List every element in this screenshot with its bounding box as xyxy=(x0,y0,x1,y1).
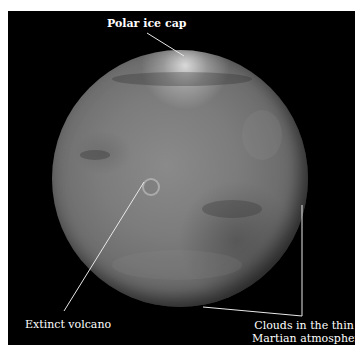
surface-feature xyxy=(112,72,252,86)
clouds-label: Clouds in the thin Martian atmosphere xyxy=(252,319,356,345)
extinct-volcano-marker xyxy=(142,178,160,196)
surface-feature xyxy=(202,200,262,218)
extinct-volcano-label: Extinct volcano xyxy=(25,318,111,331)
image-panel xyxy=(8,11,355,345)
polar-ice-cap-label: Polar ice cap xyxy=(107,17,186,30)
surface-feature xyxy=(112,250,242,280)
mars-planet xyxy=(52,50,308,307)
clouds-label-line1: Clouds in the thin xyxy=(252,319,356,332)
clouds-label-line2: Martian atmosphere xyxy=(252,332,356,345)
surface-feature xyxy=(242,110,282,160)
surface-feature xyxy=(80,150,110,160)
